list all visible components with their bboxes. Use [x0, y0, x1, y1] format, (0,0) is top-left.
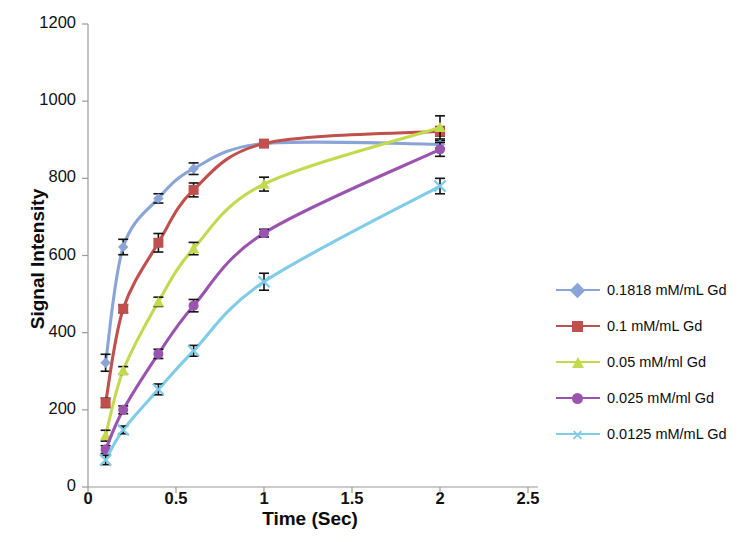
plot-area	[0, 0, 739, 542]
legend-swatch-circle-icon	[556, 390, 600, 406]
legend-swatch-x-icon	[556, 426, 600, 442]
legend: 0.1818 mM/mL Gd0.1 mM/mL Gd0.05 mM/ml Gd…	[556, 272, 727, 452]
legend-item[interactable]: 0.0125 mM/mL Gd	[556, 416, 727, 452]
legend-label: 0.1818 mM/mL Gd	[607, 282, 727, 298]
legend-swatch-triangle-icon	[556, 354, 600, 370]
chart-container: Signal Intensity Time (Sec) 020040060080…	[0, 0, 739, 542]
legend-item[interactable]: 0.1 mM/mL Gd	[556, 308, 727, 344]
series-2	[100, 116, 446, 441]
legend-label: 0.1 mM/mL Gd	[607, 318, 702, 334]
legend-item[interactable]: 0.05 mM/ml Gd	[556, 344, 727, 380]
legend-label: 0.0125 mM/mL Gd	[607, 426, 727, 442]
legend-swatch-square-icon	[556, 318, 600, 334]
legend-label: 0.025 mM/ml Gd	[607, 390, 714, 406]
legend-swatch-diamond-icon	[556, 282, 600, 298]
legend-item[interactable]: 0.025 mM/ml Gd	[556, 380, 727, 416]
legend-item[interactable]: 0.1818 mM/mL Gd	[556, 272, 727, 308]
series-3	[101, 142, 445, 454]
legend-label: 0.05 mM/ml Gd	[607, 354, 706, 370]
series-4	[100, 178, 446, 465]
